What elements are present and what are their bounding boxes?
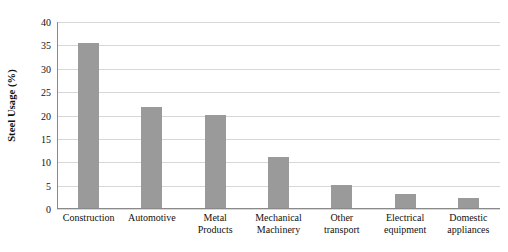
gridline: [57, 139, 500, 140]
y-axis-title-text: Steel Usage (%): [6, 69, 17, 142]
y-axis-tick-label: 40: [41, 17, 51, 28]
y-axis-tick-label: 15: [41, 133, 51, 144]
gridline: [57, 45, 500, 46]
y-axis-tick-label: 5: [46, 180, 51, 191]
y-axis-tick-labels: 0510152025303540: [22, 22, 55, 209]
gridline: [57, 209, 500, 210]
gridline: [57, 116, 500, 117]
gridline: [57, 69, 500, 70]
y-axis-tick-label: 20: [41, 110, 51, 121]
plot-area: [57, 22, 500, 209]
x-axis-line: [57, 208, 500, 209]
bar: [395, 194, 416, 208]
bar-chart-figure: Steel Usage (%) 0510152025303540 Constru…: [0, 0, 508, 252]
y-axis-tick-label: 30: [41, 63, 51, 74]
y-axis-tick-label: 35: [41, 40, 51, 51]
x-axis-tick-labels: ConstructionAutomotiveMetalProductsMecha…: [57, 212, 500, 252]
y-axis-line: [57, 22, 58, 209]
x-axis-tick-label-line: appliances: [425, 224, 508, 236]
y-axis-tick-label: 25: [41, 87, 51, 98]
x-axis-tick-label: Domesticappliances: [425, 212, 508, 235]
bar: [268, 157, 289, 208]
gridline: [57, 92, 500, 93]
x-axis-tick-label-line: Domestic: [425, 212, 508, 224]
bar: [78, 43, 99, 208]
bar: [331, 185, 352, 208]
y-axis-tick-label: 10: [41, 157, 51, 168]
bar: [141, 107, 162, 208]
bar: [458, 198, 479, 208]
y-axis-title: Steel Usage (%): [0, 0, 22, 210]
gridline: [57, 22, 500, 23]
bar: [205, 115, 226, 208]
